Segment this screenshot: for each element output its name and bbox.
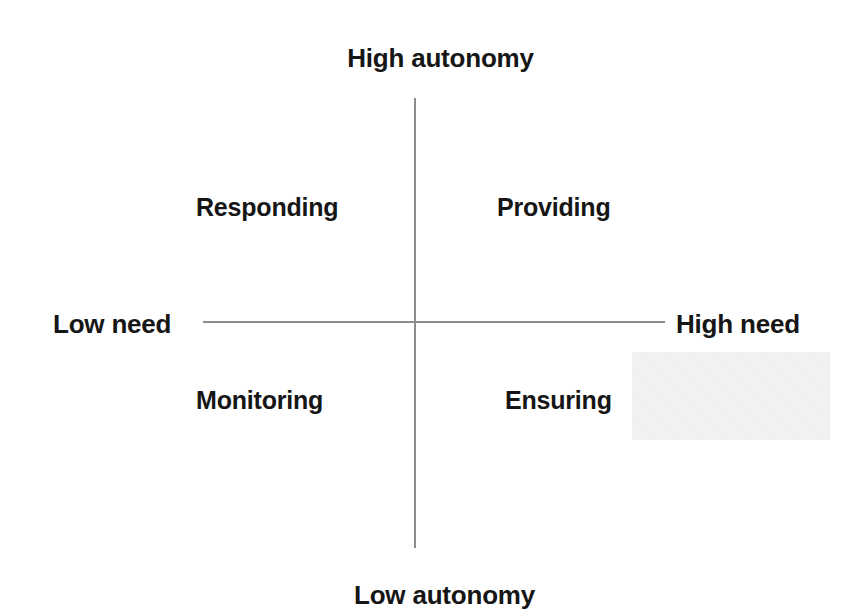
- vertical-axis-line: [414, 98, 416, 548]
- axis-label-high-need: High need: [676, 309, 800, 339]
- shaded-block: [632, 352, 830, 440]
- axis-label-high-autonomy: High autonomy: [0, 43, 863, 73]
- horizontal-axis-line: [203, 321, 665, 323]
- quadrant-label-monitoring: Monitoring: [196, 386, 323, 415]
- quadrant-label-responding: Responding: [196, 193, 338, 222]
- quadrant-diagram-canvas: High autonomy Low autonomy Low need High…: [0, 0, 863, 614]
- axis-label-low-need: Low need: [53, 309, 171, 339]
- axis-label-low-autonomy: Low autonomy: [0, 580, 863, 610]
- quadrant-label-ensuring: Ensuring: [505, 386, 612, 415]
- quadrant-label-providing: Providing: [497, 193, 610, 222]
